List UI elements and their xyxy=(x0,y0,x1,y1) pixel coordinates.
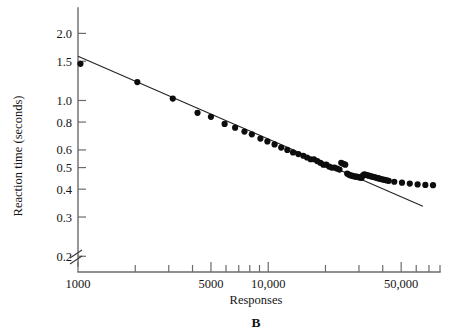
y-axis-tick-labels: 2.01.51.00.80.60.50.40.30.2 xyxy=(56,27,72,264)
data-point xyxy=(290,149,296,155)
x-tick-label: 5000 xyxy=(198,277,223,291)
data-point xyxy=(391,179,397,185)
data-point xyxy=(257,135,263,141)
fit-line xyxy=(78,56,423,206)
data-point xyxy=(241,129,247,135)
x-tick-label: 1000 xyxy=(66,277,91,291)
data-point xyxy=(271,141,277,147)
panel-letter-label: B xyxy=(251,315,260,330)
y-tick-label: 1.5 xyxy=(56,55,72,69)
y-tick-label: 0.5 xyxy=(56,161,72,175)
x-axis-ticks xyxy=(78,262,440,272)
y-tick-label: 0.2 xyxy=(56,250,72,264)
data-point xyxy=(336,166,342,172)
data-point xyxy=(386,178,392,184)
reaction-time-log-log-scatter-chart: Reaction time (seconds) 2.01.51.00.80.60… xyxy=(0,0,456,332)
figure-panel-b: Reaction time (seconds) 2.01.51.00.80.60… xyxy=(0,0,456,332)
data-point xyxy=(222,121,228,127)
data-point xyxy=(430,182,436,188)
y-tick-label: 2.0 xyxy=(56,27,72,41)
data-point xyxy=(342,162,348,168)
data-point xyxy=(407,180,413,186)
x-axis-title: Responses xyxy=(230,293,283,307)
y-axis-ticks xyxy=(78,33,86,256)
data-point xyxy=(422,182,428,188)
data-point xyxy=(232,125,238,131)
y-tick-label: 0.6 xyxy=(56,143,72,157)
data-point xyxy=(415,181,421,187)
data-point xyxy=(194,110,200,116)
data-point xyxy=(208,114,214,120)
x-tick-label: 50,000 xyxy=(384,277,418,291)
y-tick-label: 1.0 xyxy=(56,94,72,108)
x-tick-label: 10,000 xyxy=(251,277,285,291)
x-axis-tick-labels: 1000500010,00050,000 xyxy=(66,277,419,291)
data-point xyxy=(170,95,176,101)
y-tick-label: 0.3 xyxy=(56,211,72,225)
data-point xyxy=(249,131,255,137)
data-point xyxy=(134,79,140,85)
regression-fit-line xyxy=(78,56,423,206)
data-point xyxy=(278,144,284,150)
data-point xyxy=(77,61,83,67)
data-point xyxy=(399,180,405,186)
y-tick-label: 0.8 xyxy=(56,116,72,130)
y-axis-title: Reaction time (seconds) xyxy=(11,96,25,217)
y-tick-label: 0.4 xyxy=(56,183,72,197)
data-point xyxy=(264,138,270,144)
data-point xyxy=(284,147,290,153)
